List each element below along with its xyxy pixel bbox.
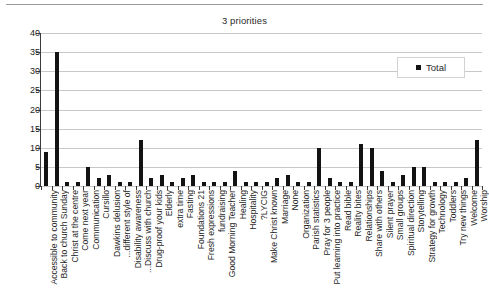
bar	[139, 140, 143, 186]
y-tick-label-40: 40	[6, 29, 40, 38]
x-axis-label: Spiritual direction	[407, 190, 416, 307]
y-tick-label-20: 20	[6, 105, 40, 114]
x-axis-label: Come next year	[81, 190, 90, 307]
bar-series-total	[41, 33, 482, 186]
x-axis-label: Fasting	[186, 190, 195, 307]
x-axis-label: extra time	[176, 190, 185, 307]
bar	[370, 148, 374, 186]
x-axis-label: Share with others	[375, 190, 384, 307]
x-axis-label: None	[291, 190, 300, 307]
x-axis-label: Make Christ known	[270, 190, 279, 307]
y-tick-label-15: 15	[6, 124, 40, 133]
x-axis-label: fundraising	[218, 190, 227, 307]
x-axis-label: Back to church Sunday	[60, 190, 69, 307]
bar	[44, 152, 48, 186]
x-axis-label: Marriage	[281, 190, 290, 307]
x-axis-label: Hospitality	[249, 190, 258, 307]
y-axis: 0510152025303540	[0, 0, 40, 307]
x-axis-label: Drug-proof your kids	[155, 190, 164, 307]
y-tick-label-0: 0	[6, 182, 40, 191]
x-axis-label: Small groups	[396, 190, 405, 307]
bar	[286, 175, 290, 186]
x-axis-label: Welcome	[470, 190, 479, 307]
legend-label-total: Total	[426, 62, 446, 73]
bar	[275, 178, 279, 186]
bar	[464, 178, 468, 186]
x-axis-label: Organization	[302, 190, 311, 307]
chart-container: 3 priorities 0510152025303540 Accessible…	[0, 0, 489, 307]
y-tick-label-5: 5	[6, 162, 40, 171]
x-axis-label: Technology	[438, 190, 447, 307]
x-axis-label: Try new things	[459, 190, 468, 307]
x-axis-label: Put learning into practice	[333, 190, 342, 307]
x-axis-label: Good Morning Teacher	[228, 190, 237, 307]
legend-swatch-total	[416, 65, 421, 70]
y-tick-label-35: 35	[6, 48, 40, 57]
plot-area	[41, 33, 482, 186]
bar	[359, 144, 363, 186]
top-divider	[6, 4, 483, 5]
x-axis-label: Toddlers	[449, 190, 458, 307]
chart-title: 3 priorities	[0, 15, 489, 26]
y-tick-label-25: 25	[6, 86, 40, 95]
x-axis-label: Christ at the centre	[71, 190, 80, 307]
x-axis-label: Foundations 21	[197, 190, 206, 307]
bar	[97, 178, 101, 186]
bar	[422, 167, 426, 186]
x-axis-label: Communication	[92, 190, 101, 307]
bar	[401, 175, 405, 186]
bar	[160, 175, 164, 186]
bar	[181, 178, 185, 186]
x-axis-label: Elderly	[165, 190, 174, 307]
bar	[317, 148, 321, 186]
x-axis-label: Worship	[480, 190, 489, 307]
x-axis-label: Relationships	[365, 190, 374, 307]
x-axis-label: Parish statistics	[312, 190, 321, 307]
bar	[107, 175, 111, 186]
x-axis-label: Healing	[239, 190, 248, 307]
x-axis-label: Discuss with church...	[144, 190, 153, 307]
bar	[233, 171, 237, 186]
x-axis-label: different style of...	[123, 190, 132, 307]
bar	[328, 178, 332, 186]
bar	[86, 167, 90, 186]
x-axis-label: LYCIG?	[260, 190, 269, 307]
chart-legend: Total	[397, 57, 465, 78]
bar	[55, 52, 59, 186]
bar	[380, 171, 384, 186]
x-axis-label: Strategy for growth	[428, 190, 437, 307]
x-axis-label: Read bible	[344, 190, 353, 307]
x-axis-labels: Accessible to communityBack to church Su…	[41, 190, 482, 307]
bar	[412, 167, 416, 186]
x-axis-label: Fresh expressions	[207, 190, 216, 307]
x-axis-label: Storytelling	[417, 190, 426, 307]
x-axis-label: Disability awareness	[134, 190, 143, 307]
bar	[191, 175, 195, 186]
bar	[149, 178, 153, 186]
x-axis-label: Silent prayer	[386, 190, 395, 307]
x-axis-label: Cursillo	[102, 190, 111, 307]
y-tick-label-10: 10	[6, 143, 40, 152]
bar	[475, 140, 479, 186]
x-axis-label: Reality bites	[354, 190, 363, 307]
x-axis-label: Accessible to community	[50, 190, 59, 307]
x-axis-label: Dawkins delusion	[113, 190, 122, 307]
y-tick-label-30: 30	[6, 67, 40, 76]
x-axis-label: Pray for 3 people	[323, 190, 332, 307]
